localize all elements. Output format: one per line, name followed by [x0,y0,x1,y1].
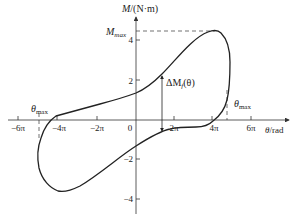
hysteresis-chart: −6π −4π −2π 0 2π 4π 6π 4 2 −2 −4 M/(N·m)… [0,0,292,215]
x-tick-label: −6π [11,123,26,133]
y-ticks [136,40,140,199]
y-tick-label: 4 [129,35,134,45]
x-axis-label: θ/rad [265,125,284,135]
theta-max-label-left: θmax [31,103,48,116]
x-tick-label: −2π [90,123,105,133]
y-tick-label: −4 [123,194,133,204]
y-tick-label: 2 [129,76,134,86]
theta-max-label-right: θmax [234,98,251,111]
delta-m-label: ΔMf(θ) [166,77,195,90]
x-tick-label: −4π [52,123,67,133]
x-tick-label: 6π [246,123,256,133]
y-axis-label: M/(N·m) [121,3,158,15]
mmax-label: Mmax [105,26,127,39]
x-tick-label: 0 [128,123,133,133]
y-tick-label: −2 [123,154,133,164]
hysteresis-loop [38,31,230,192]
x-tick-label: 4π [209,123,219,133]
